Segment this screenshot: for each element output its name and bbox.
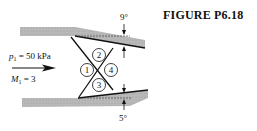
nozzle-diagram: 1 2 3 4 9° 5° p1 = 50 kPa M1 = 3: [0, 0, 257, 131]
inlet-mach-label: M1 = 3: [10, 74, 36, 85]
top-angle-label: 9°: [120, 12, 129, 22]
region-2-label: 2: [97, 50, 102, 60]
bottom-wall: [22, 90, 148, 107]
flow-arrow-icon: [12, 65, 56, 72]
region-3-label: 3: [97, 80, 102, 90]
bottom-angle-label: 5°: [119, 113, 128, 123]
top-wall: [20, 27, 145, 48]
top-angle-marker: 9°: [120, 12, 129, 58]
inlet-pressure-label: p1 = 50 kPa: [8, 51, 51, 62]
region-4-label: 4: [109, 65, 114, 75]
region-1-label: 1: [85, 65, 90, 75]
